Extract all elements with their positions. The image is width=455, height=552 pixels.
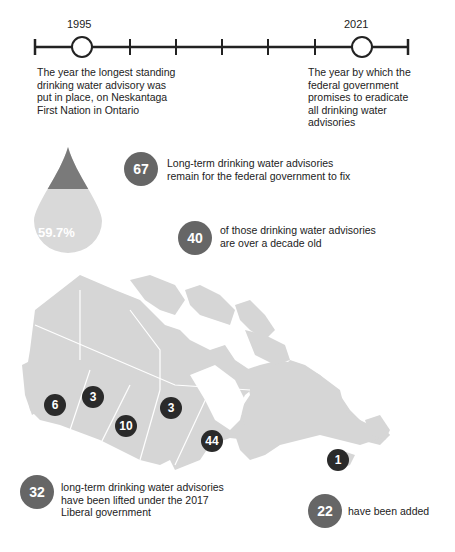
droplet-percent-label: 59.7% bbox=[38, 225, 75, 240]
stat-circle-remaining: 67 bbox=[124, 152, 158, 186]
timeline-start-caption: The year the longest standing drinking w… bbox=[37, 66, 175, 116]
stat-text-added: have been added bbox=[348, 505, 429, 518]
canada-map bbox=[0, 270, 455, 495]
timeline-start-year: 1995 bbox=[67, 18, 91, 30]
map-marker-saskatchewan: 10 bbox=[115, 415, 137, 437]
stat-circle-added: 22 bbox=[308, 494, 342, 528]
map-marker-bc: 6 bbox=[44, 394, 66, 416]
map-marker-nova-scotia: 1 bbox=[327, 449, 349, 471]
timeline-marker-end bbox=[352, 37, 372, 57]
timeline-axis bbox=[0, 0, 455, 70]
map-marker-ontario: 44 bbox=[201, 430, 223, 452]
map-marker-manitoba: 3 bbox=[160, 397, 182, 419]
stat-text-remaining: Long-term drinking water advisories rema… bbox=[167, 157, 350, 182]
timeline-end-caption: The year by which the federal government… bbox=[308, 66, 411, 129]
map-marker-alberta: 3 bbox=[82, 386, 104, 408]
droplet-fill-top bbox=[30, 145, 110, 189]
timeline-marker-start bbox=[72, 37, 92, 57]
stat-circle-lifted: 32 bbox=[20, 475, 54, 509]
stat-text-lifted: long-term drinking water advisories have… bbox=[61, 481, 224, 519]
timeline-end-year: 2021 bbox=[344, 18, 368, 30]
stat-circle-decade-old: 40 bbox=[178, 221, 212, 255]
stat-text-decade-old: of those drinking water advisories are o… bbox=[220, 224, 376, 249]
